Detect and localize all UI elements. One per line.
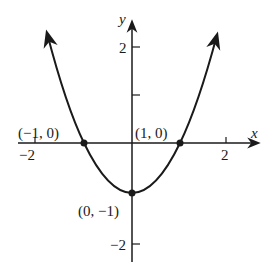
y-tick-label-neg2: −2 [110, 237, 126, 253]
point-label-0-neg1: (0, −1) [78, 203, 119, 220]
y-axis-label: y [117, 11, 126, 27]
point-0-neg1 [129, 190, 136, 197]
point-neg1-0 [81, 140, 88, 147]
y-tick-label-2: 2 [119, 40, 127, 56]
point-1-0 [177, 140, 184, 147]
parabola-right-branch [180, 35, 217, 143]
x-axis-label: x [250, 125, 258, 141]
point-label-1-0: (1, 0) [135, 125, 168, 142]
x-tick-label-2: 2 [221, 147, 229, 163]
x-tick-label-neg2: −2 [19, 147, 35, 163]
point-label-neg1-0: (−1, 0) [18, 125, 59, 142]
parabola-chart: y x −2 2 2 −2 (−1, 0) (1, 0) (0, −1) [0, 0, 271, 277]
